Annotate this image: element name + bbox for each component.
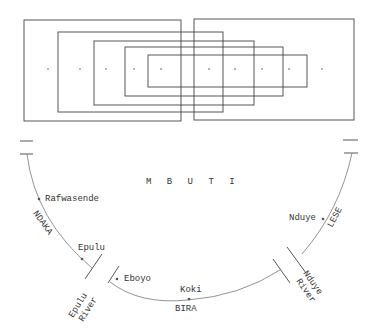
dot — [79, 68, 81, 70]
box-left-outer — [24, 20, 181, 121]
place-dot-rafwasende — [38, 198, 41, 201]
box-3 — [94, 41, 254, 105]
place-dot-eboyo — [116, 278, 119, 281]
box-4 — [125, 47, 283, 96]
place-label-epulu: Epulu — [78, 243, 105, 253]
place-label-eboyo: Eboyo — [124, 274, 151, 284]
group-label-bira: BIRA — [175, 304, 197, 314]
place-label-rafwasende: Rafwasende — [45, 194, 99, 204]
epulu-river-bank-1 — [85, 254, 102, 279]
place-label-koki: Koki — [180, 285, 202, 295]
place-dot-nduye — [322, 218, 325, 221]
arc-right — [302, 153, 352, 254]
nduye-river-bank-2 — [287, 247, 306, 273]
dot — [47, 68, 49, 70]
group-label-lese: LESE — [326, 206, 345, 230]
dot — [261, 68, 263, 70]
dot — [133, 68, 135, 70]
center-dots — [47, 68, 323, 70]
dot — [234, 68, 236, 70]
place-dot-koki — [188, 298, 191, 301]
box-2 — [58, 32, 223, 112]
place-label-nduye: Nduye — [289, 213, 316, 223]
dot — [208, 68, 210, 70]
dot — [288, 68, 290, 70]
dot — [321, 68, 323, 70]
nduye-river-bank-1 — [273, 259, 290, 283]
territory-diagram: M B U T I Rafwasende Epulu Eboyo Koki Nd… — [0, 0, 374, 336]
place-dot-epulu — [81, 258, 84, 261]
group-label-ndaka: NDAKA — [31, 209, 55, 237]
dot — [105, 68, 107, 70]
epulu-river-bank-2 — [108, 266, 119, 283]
mbuti-label: M B U T I — [146, 177, 240, 187]
dot — [160, 68, 162, 70]
